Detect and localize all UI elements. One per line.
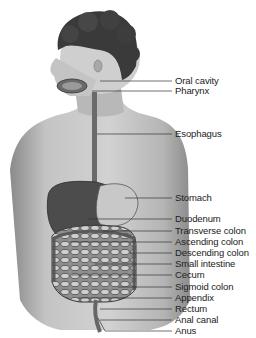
- label-duodenum: Duodenum: [175, 214, 221, 224]
- label-sigmoid-colon: Sigmoid colon: [175, 282, 233, 292]
- label-descending-colon: Descending colon: [175, 248, 249, 258]
- head: [50, 10, 140, 96]
- label-anus: Anus: [175, 326, 196, 336]
- label-small-intestine: Small intestine: [175, 259, 235, 269]
- label-rectum: Rectum: [175, 304, 207, 314]
- label-stomach: Stomach: [175, 193, 212, 203]
- label-appendix: Appendix: [175, 293, 214, 303]
- esophagus: [92, 92, 97, 192]
- label-cecum: Cecum: [175, 270, 205, 280]
- label-anal-canal: Anal canal: [175, 315, 218, 325]
- label-ascending-colon: Ascending colon: [175, 237, 243, 247]
- label-pharynx: Pharynx: [175, 86, 209, 96]
- label-transverse-colon: Transverse colon: [175, 226, 246, 236]
- label-esophagus: Esophagus: [175, 129, 222, 139]
